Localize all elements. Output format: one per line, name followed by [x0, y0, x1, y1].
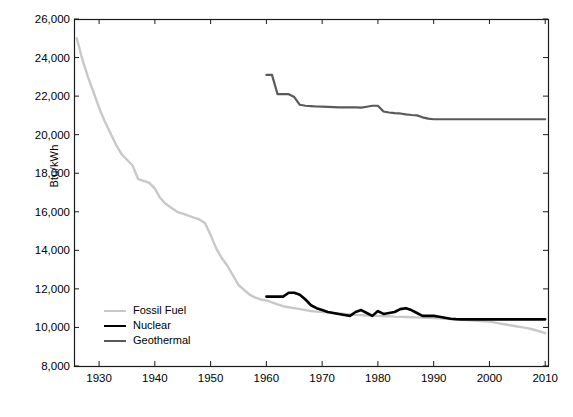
series-line-nuclear	[266, 293, 545, 320]
legend-label: Nuclear	[133, 318, 171, 333]
chart-legend: Fossil FuelNuclearGeothermal	[104, 303, 190, 348]
legend-item: Nuclear	[104, 318, 190, 333]
plot-area	[0, 0, 573, 417]
legend-swatch-line-icon	[104, 310, 126, 312]
legend-item: Geothermal	[104, 333, 190, 348]
legend-item: Fossil Fuel	[104, 303, 190, 318]
series-line-geothermal	[266, 75, 545, 119]
legend-label: Fossil Fuel	[133, 303, 186, 318]
legend-swatch-line-icon	[104, 340, 126, 342]
legend-swatch-line-icon	[104, 325, 126, 327]
legend-label: Geothermal	[133, 333, 190, 348]
series-line-fossil-fuel	[77, 38, 545, 333]
chart-container: Btu/kWh 8,00010,00012,00014,00016,00018,…	[0, 0, 573, 417]
